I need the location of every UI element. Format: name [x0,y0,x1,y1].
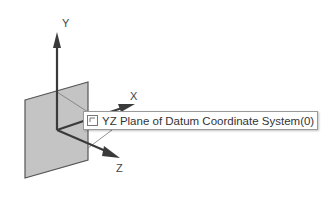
y-axis-arrowhead-icon [53,32,61,48]
z-axis-arrowhead-icon [102,146,120,158]
plane-icon [87,115,98,126]
datum-coordinate-system-viewport[interactable] [0,0,335,198]
x-axis-label: X [130,90,137,102]
hover-tooltip: YZ Plane of Datum Coordinate System(0) [83,111,318,130]
y-axis-label: Y [62,17,69,29]
tooltip-text: YZ Plane of Datum Coordinate System(0) [102,115,314,127]
z-axis-label: Z [116,162,123,174]
